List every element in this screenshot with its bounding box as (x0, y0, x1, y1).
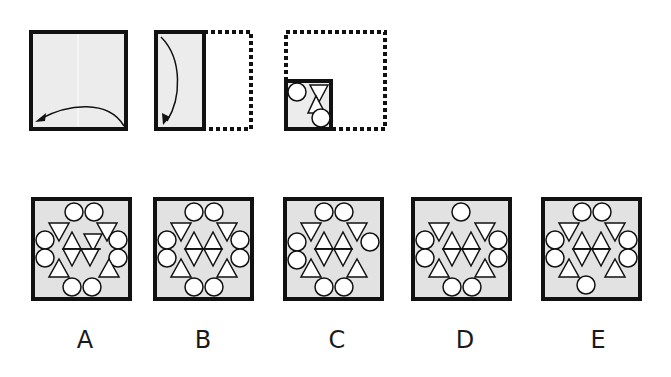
step-3-panel (283, 29, 391, 133)
option-c[interactable] (283, 197, 384, 301)
option-a-figure[interactable] (31, 197, 132, 301)
step-1-square (28, 29, 130, 133)
option-e[interactable] (541, 197, 642, 301)
option-b[interactable] (153, 197, 254, 301)
option-c-label: C (317, 326, 357, 354)
option-a[interactable] (31, 197, 132, 301)
step-1-panel (28, 29, 130, 133)
option-e-label: E (578, 326, 618, 354)
hole-circle-icon (312, 109, 330, 127)
option-e-figure[interactable] (541, 197, 642, 301)
step-2-panel (153, 29, 257, 133)
step-3-punched (283, 29, 391, 133)
option-d-figure[interactable] (411, 197, 512, 301)
option-b-label: B (183, 326, 223, 354)
step-2-rectangle (153, 29, 257, 133)
option-d[interactable] (411, 197, 512, 301)
hole-circle-icon (288, 83, 306, 101)
option-b-figure[interactable] (153, 197, 254, 301)
option-d-label: D (445, 326, 485, 354)
option-c-figure[interactable] (283, 197, 384, 301)
option-a-label: A (65, 326, 105, 354)
